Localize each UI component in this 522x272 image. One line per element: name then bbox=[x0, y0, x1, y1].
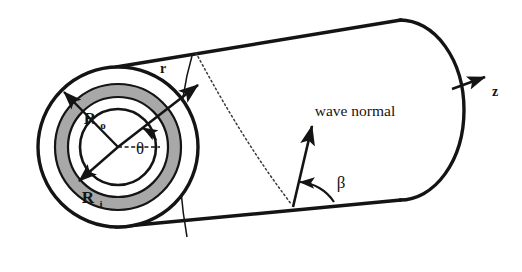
theta-angle-label: θ bbox=[136, 139, 144, 158]
diagram-canvas: R o R i r θ β wave normal z bbox=[0, 0, 522, 272]
inner-radius-label: R bbox=[82, 188, 95, 207]
wave-normal-label: wave normal bbox=[315, 102, 395, 119]
beta-angle-label: β bbox=[337, 173, 346, 192]
outer-radius-label: R bbox=[84, 109, 97, 128]
outer-radius-subscript: o bbox=[100, 119, 106, 131]
inner-radius-subscript: i bbox=[99, 198, 102, 210]
cylindrical-shell-figure: R o R i r θ β wave normal z bbox=[0, 0, 522, 272]
z-axis-label: z bbox=[492, 84, 498, 99]
radial-coordinate-label: r bbox=[160, 61, 166, 76]
